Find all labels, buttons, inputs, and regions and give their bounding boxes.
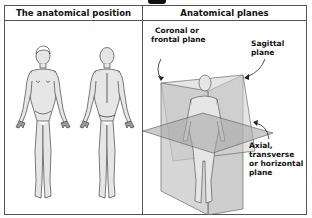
posterior-view-figure: [80, 48, 134, 199]
coronal-arrowhead: [158, 76, 164, 81]
sagittal-arrow: [247, 59, 265, 77]
coronal-arrow: [158, 59, 161, 79]
header-anatomical-position: The anatomical position: [5, 6, 143, 21]
sagittal-arrowhead: [244, 74, 249, 80]
coronal-label-line1: Coronal or: [151, 26, 206, 35]
axial-label-line2: or horizontal: [249, 159, 306, 168]
coronal-label-line2: frontal plane: [151, 35, 206, 44]
axial-arrowhead: [253, 120, 258, 126]
header-anatomical-planes: Anatomical planes: [143, 6, 306, 21]
axial-label-line1: Axial, transverse: [249, 141, 306, 159]
anterior-view-figure: [16, 46, 70, 198]
title-fragment: [148, 0, 166, 4]
anatomical-position-illustration: [5, 21, 142, 215]
axial-label-line3: plane: [249, 168, 306, 177]
coronal-label: Coronal or frontal plane: [151, 26, 206, 44]
anatomical-position-panel: [5, 21, 142, 214]
anatomical-planes-panel: Coronal or frontal plane Sagittal plane …: [143, 21, 306, 214]
axial-label: Axial, transverse or horizontal plane: [249, 141, 306, 177]
anatomy-table: The anatomical position Anatomical plane…: [4, 5, 307, 215]
sagittal-label: Sagittal plane: [251, 39, 306, 57]
